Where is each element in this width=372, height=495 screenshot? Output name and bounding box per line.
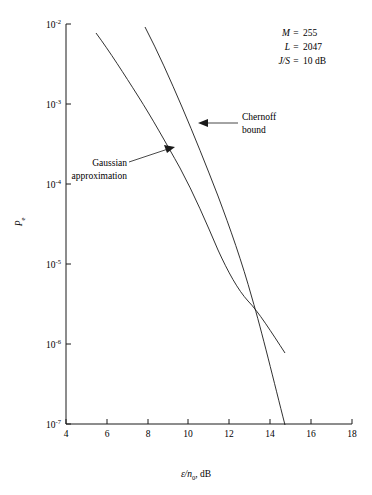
x-tick-labels: 4 6 8 10 12 14 16 18 (64, 429, 357, 439)
x-tick-label-4: 4 (64, 429, 69, 439)
param-m-value: 255 (303, 28, 318, 38)
param-l-equals: = (293, 42, 298, 52)
chernoff-label-line2: bound (242, 125, 266, 135)
y-tick-label-1e-6: 10-6 (46, 338, 62, 350)
param-js-symbol: J/S (278, 56, 290, 66)
curve-chernoff-bound (145, 27, 285, 425)
y-tick-labels: 10-2 10-3 10-4 10-5 10-6 10-7 (46, 18, 62, 430)
figure-container: 10-2 10-3 10-4 10-5 10-6 10-7 4 6 8 10 1… (0, 0, 372, 495)
x-tick-label-18: 18 (347, 429, 357, 439)
x-axis-title: ε/n0, dB (181, 469, 211, 481)
param-l-symbol: L (284, 42, 290, 52)
y-tick-label-1e-4: 10-4 (46, 178, 62, 190)
x-tick-label-12: 12 (224, 429, 234, 439)
gaussian-arrowhead-icon (164, 145, 175, 153)
y-tick-label-1e-5: 10-5 (46, 258, 61, 270)
x-tick-label-10: 10 (183, 429, 193, 439)
y-tick-label-1e-2: 10-2 (46, 18, 61, 30)
param-l-value: 2047 (303, 42, 322, 52)
chernoff-bound-annotation: Chernoff bound (198, 112, 277, 135)
axes-group (66, 24, 352, 424)
x-tick-label-14: 14 (265, 429, 275, 439)
gaussian-label-line2: approximation (72, 171, 128, 181)
param-m-equals: = (293, 28, 298, 38)
chernoff-arrowhead-icon (198, 119, 208, 127)
curve-gaussian-approximation (96, 33, 285, 353)
y-tick-label-1e-7: 10-7 (46, 418, 62, 430)
chart-svg: 10-2 10-3 10-4 10-5 10-6 10-7 4 6 8 10 1… (0, 0, 372, 495)
gaussian-approximation-annotation: Gaussian approximation (72, 145, 175, 181)
param-m-symbol: M (281, 28, 291, 38)
x-tick-label-6: 6 (105, 429, 110, 439)
parameter-annotation-box: M = 255 L = 2047 J/S = 10 dB (278, 28, 326, 66)
x-tick-marks (66, 419, 352, 424)
gaussian-leader-line (129, 149, 168, 162)
gaussian-label-line1: Gaussian (92, 158, 127, 168)
y-tick-marks (66, 24, 71, 424)
x-tick-label-16: 16 (306, 429, 316, 439)
param-js-equals: = (293, 56, 298, 66)
x-tick-label-8: 8 (146, 429, 151, 439)
y-axis-title: Pe (14, 218, 26, 228)
chernoff-label-line1: Chernoff (242, 112, 277, 122)
param-js-value: 10 dB (303, 56, 326, 66)
y-tick-label-1e-3: 10-3 (46, 98, 61, 110)
